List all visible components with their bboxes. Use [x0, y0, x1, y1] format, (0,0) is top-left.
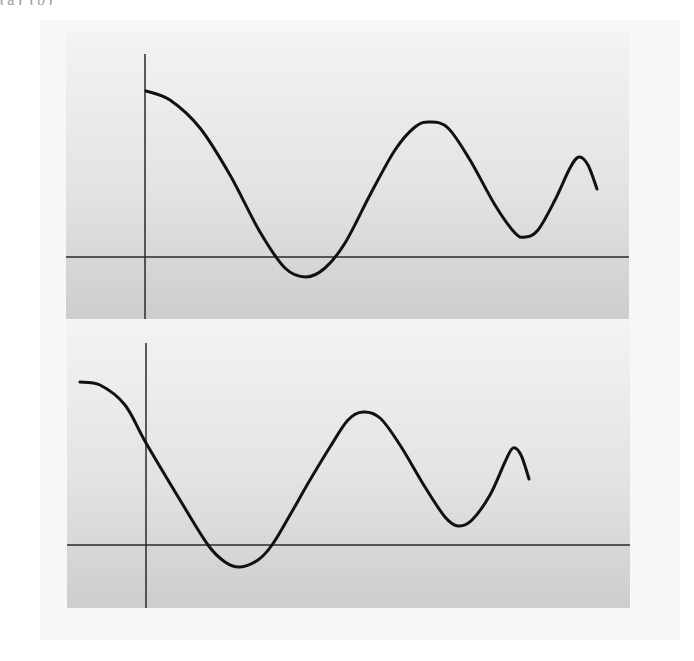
figure-canvas: [0, 0, 694, 661]
figure: (a) (b): [0, 0, 694, 661]
clipped-caption: (a) (b): [0, 0, 694, 5]
bottom-panel-background: [67, 320, 630, 608]
bottom-panel: [67, 320, 630, 608]
top-panel: [66, 32, 629, 319]
top-panel-background: [66, 32, 629, 319]
